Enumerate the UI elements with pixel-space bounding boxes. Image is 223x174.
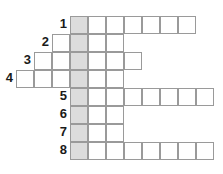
letter-cell[interactable] bbox=[106, 124, 124, 142]
letter-cell[interactable] bbox=[16, 70, 34, 88]
letter-cell[interactable] bbox=[178, 142, 196, 160]
keyword-cell[interactable] bbox=[70, 142, 88, 160]
letter-cell[interactable] bbox=[52, 70, 70, 88]
row-number: 2 bbox=[35, 33, 49, 51]
letter-cell[interactable] bbox=[88, 142, 106, 160]
letter-cell[interactable] bbox=[88, 70, 106, 88]
letter-cell[interactable] bbox=[88, 34, 106, 52]
letter-cell[interactable] bbox=[88, 52, 106, 70]
row-number: 3 bbox=[17, 51, 31, 69]
row-number: 8 bbox=[53, 141, 67, 159]
letter-cell[interactable] bbox=[196, 142, 214, 160]
row-number: 4 bbox=[0, 69, 13, 87]
letter-cell[interactable] bbox=[178, 16, 196, 34]
letter-cell[interactable] bbox=[88, 106, 106, 124]
letter-cell[interactable] bbox=[106, 70, 124, 88]
keyword-cell[interactable] bbox=[70, 52, 88, 70]
letter-cell[interactable] bbox=[88, 88, 106, 106]
keyword-cell[interactable] bbox=[70, 16, 88, 34]
letter-cell[interactable] bbox=[106, 142, 124, 160]
letter-cell[interactable] bbox=[142, 16, 160, 34]
letter-cell[interactable] bbox=[124, 88, 142, 106]
keyword-cell[interactable] bbox=[70, 106, 88, 124]
row-number: 6 bbox=[53, 105, 67, 123]
crossword-grid: 12345678 bbox=[0, 0, 223, 174]
letter-cell[interactable] bbox=[106, 106, 124, 124]
letter-cell[interactable] bbox=[160, 88, 178, 106]
letter-cell[interactable] bbox=[88, 16, 106, 34]
letter-cell[interactable] bbox=[34, 52, 52, 70]
letter-cell[interactable] bbox=[142, 88, 160, 106]
keyword-cell[interactable] bbox=[70, 88, 88, 106]
row-number: 7 bbox=[53, 123, 67, 141]
letter-cell[interactable] bbox=[160, 16, 178, 34]
letter-cell[interactable] bbox=[88, 124, 106, 142]
letter-cell[interactable] bbox=[124, 142, 142, 160]
letter-cell[interactable] bbox=[52, 52, 70, 70]
letter-cell[interactable] bbox=[178, 88, 196, 106]
letter-cell[interactable] bbox=[160, 142, 178, 160]
letter-cell[interactable] bbox=[196, 88, 214, 106]
letter-cell[interactable] bbox=[142, 142, 160, 160]
letter-cell[interactable] bbox=[106, 52, 124, 70]
letter-cell[interactable] bbox=[106, 34, 124, 52]
row-number: 5 bbox=[53, 87, 67, 105]
keyword-cell[interactable] bbox=[70, 70, 88, 88]
letter-cell[interactable] bbox=[106, 88, 124, 106]
keyword-cell[interactable] bbox=[70, 34, 88, 52]
letter-cell[interactable] bbox=[34, 70, 52, 88]
letter-cell[interactable] bbox=[106, 16, 124, 34]
letter-cell[interactable] bbox=[124, 52, 142, 70]
keyword-cell[interactable] bbox=[70, 124, 88, 142]
letter-cell[interactable] bbox=[124, 16, 142, 34]
letter-cell[interactable] bbox=[52, 34, 70, 52]
row-number: 1 bbox=[53, 15, 67, 33]
